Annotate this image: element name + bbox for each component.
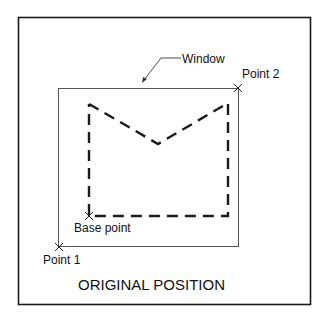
leader-arrow-icon [142, 77, 147, 83]
point1-label: Point 1 [43, 253, 81, 267]
window-label: Window [182, 52, 225, 66]
base-point-label: Base point [74, 221, 131, 235]
diagram-canvas: Window Point 2 Base point Point 1 ORIGIN… [0, 0, 323, 318]
dashed-object [89, 103, 228, 216]
caption: ORIGINAL POSITION [78, 276, 225, 293]
window-leader-line [144, 58, 181, 80]
point2-label: Point 2 [242, 67, 280, 81]
